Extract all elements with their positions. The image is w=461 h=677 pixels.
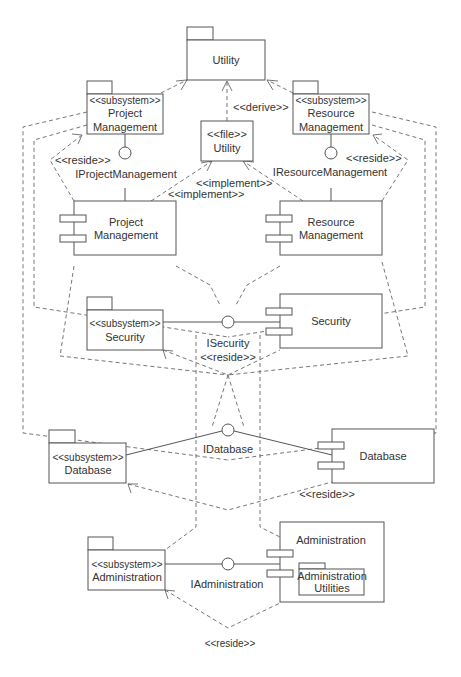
implement-label: <<implement>> — [168, 188, 244, 200]
stereotype-label: <<subsystem>> — [91, 559, 162, 570]
package-resource-management[interactable]: <<subsystem>> Resource Management — [293, 81, 369, 134]
package-label: Project — [108, 107, 142, 119]
reside-label: <<reside>> — [55, 154, 111, 166]
component-administration[interactable]: Administration Administration Utilities — [267, 522, 384, 602]
component-label: Database — [359, 450, 406, 462]
reside-label: <<reside>> — [299, 488, 355, 500]
component-label: Security — [311, 315, 351, 327]
package-database[interactable]: <<subsystem>> Database — [49, 430, 126, 483]
package-label: Administration — [297, 570, 367, 582]
component-database[interactable]: Database — [318, 429, 434, 483]
package-security[interactable]: <<subsystem>> Security — [87, 297, 163, 350]
component-project-management[interactable]: Project Management — [60, 201, 176, 255]
stereotype-label: <<subsystem>> — [89, 95, 160, 106]
package-label: Security — [105, 331, 145, 343]
stereotype-label: <<file>> — [207, 128, 247, 140]
file-utility[interactable]: <<file>> Utility — [201, 121, 253, 161]
component-label: Project — [109, 216, 143, 228]
interface-isecurity[interactable] — [163, 316, 280, 328]
derive-label: <<derive>> — [233, 101, 289, 113]
component-diagram: Utility <<subsystem>> Project Management… — [0, 0, 461, 677]
interface-label: ISecurity — [207, 337, 250, 349]
package-label: Resource — [307, 107, 354, 119]
package-project-management[interactable]: <<subsystem>> Project Management — [87, 81, 163, 134]
component-label: Resource — [307, 216, 354, 228]
package-administration[interactable]: <<subsystem>> Administration — [88, 537, 165, 590]
stereotype-label: <<subsystem>> — [89, 318, 160, 329]
package-label: Administration — [92, 571, 162, 583]
package-label: Management — [93, 121, 157, 133]
package-utility[interactable]: Utility — [187, 27, 265, 80]
interface-label: IAdministration — [191, 578, 264, 590]
package-label: Utilities — [314, 582, 350, 594]
component-label: Management — [94, 229, 158, 241]
stereotype-label: <<subsystem>> — [295, 95, 366, 106]
interface-label: IProjectManagement — [75, 168, 177, 180]
component-label: Management — [299, 229, 363, 241]
package-utility-label: Utility — [213, 54, 240, 66]
package-label: Database — [64, 464, 111, 476]
reside-label: <<reside>> — [205, 638, 256, 649]
reside-label: <<reside>> — [200, 351, 256, 363]
component-security[interactable]: Security — [266, 294, 382, 348]
component-resource-management[interactable]: Resource Management — [266, 201, 382, 255]
interface-iadministration[interactable] — [165, 558, 280, 570]
interface-label: IResourceManagement — [273, 166, 387, 178]
component-label: Administration — [296, 534, 366, 546]
stereotype-label: <<subsystem>> — [52, 452, 123, 463]
reside-label: <<reside>> — [346, 152, 402, 164]
interface-label: IDatabase — [203, 443, 253, 455]
file-label: Utility — [214, 142, 241, 154]
package-label: Management — [299, 121, 363, 133]
